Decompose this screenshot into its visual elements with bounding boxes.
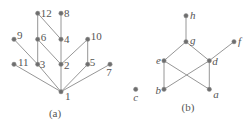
- node-label-9: 9: [17, 29, 23, 41]
- node-label-12: 12: [41, 7, 52, 19]
- node-8: [59, 11, 63, 15]
- node-11: [12, 62, 16, 66]
- node-label-f: f: [238, 35, 243, 47]
- node-9: [12, 37, 16, 41]
- node-label-4: 4: [64, 33, 70, 45]
- node-label-10: 10: [91, 30, 103, 42]
- node-b: [162, 87, 166, 91]
- node-label-b: b: [156, 84, 162, 96]
- node-1: [59, 90, 63, 94]
- diagram-b: hgfedcba (b): [133, 9, 243, 114]
- node-6: [36, 37, 40, 41]
- node-label-6: 6: [41, 31, 47, 43]
- node-d: [207, 59, 211, 63]
- node-g: [184, 40, 188, 44]
- node-label-1: 1: [65, 90, 71, 102]
- node-2: [59, 62, 63, 66]
- caption-b: (b): [182, 101, 195, 114]
- node-label-a: a: [213, 88, 219, 100]
- node-label-8: 8: [64, 7, 70, 19]
- node-label-g: g: [190, 34, 196, 46]
- node-label-e: e: [156, 54, 161, 66]
- edge-g-e: [164, 42, 186, 61]
- node-4: [59, 37, 63, 41]
- node-label-5: 5: [90, 56, 96, 68]
- node-label-3: 3: [40, 58, 46, 70]
- node-label-7: 7: [106, 66, 112, 78]
- node-label-h: h: [190, 9, 196, 21]
- node-label-2: 2: [64, 59, 70, 71]
- node-10: [86, 37, 90, 41]
- node-label-d: d: [212, 55, 218, 67]
- node-12: [36, 11, 40, 15]
- node-f: [232, 40, 236, 44]
- node-h: [184, 14, 188, 18]
- diagram-b-nodes: [134, 14, 237, 92]
- diagram-a-edges: [14, 13, 110, 91]
- hasse-diagrams: 128964101132571 (a) hgfedcba (b): [0, 0, 252, 124]
- node-label-11: 11: [18, 56, 29, 68]
- node-e: [162, 59, 166, 63]
- diagram-b-labels: hgfedcba: [133, 9, 243, 103]
- diagram-b-edges: [164, 16, 234, 90]
- node-a: [207, 87, 211, 91]
- caption-a: (a): [49, 107, 62, 120]
- edge-11-1: [14, 64, 61, 91]
- node-label-c: c: [133, 91, 138, 103]
- diagram-a: 128964101132571 (a): [12, 7, 112, 120]
